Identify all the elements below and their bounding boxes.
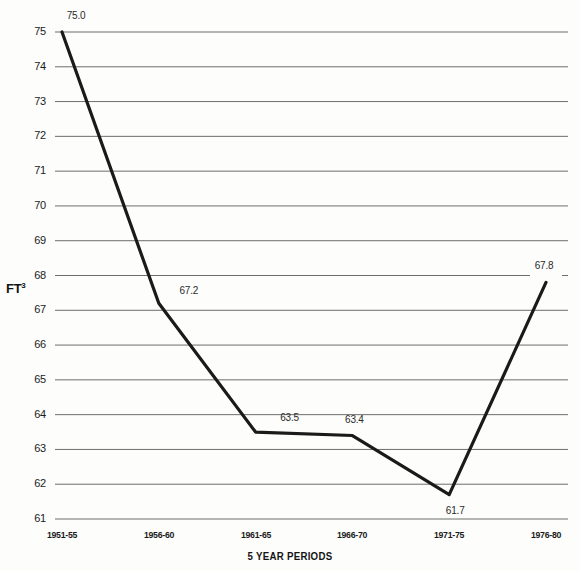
y-axis-tick-label: 71	[14, 164, 46, 176]
x-axis-title: 5 YEAR PERIODS	[35, 550, 545, 562]
x-axis-tick-label: 1966-70	[311, 529, 394, 540]
data-point-label: 67.2	[159, 285, 219, 296]
y-axis-tick-label: 67	[14, 303, 46, 315]
y-axis-tick-label: 61	[14, 512, 46, 524]
data-point-label: 75.0	[46, 10, 106, 21]
x-axis-tick-label: 1961-65	[214, 529, 297, 540]
data-point-label: 63.4	[324, 414, 384, 425]
y-axis-tick-label: 75	[14, 25, 46, 37]
y-axis-tick-label: 69	[14, 234, 46, 246]
data-point-label: 63.5	[260, 412, 320, 423]
x-axis-tick-label: 1951-55	[21, 529, 104, 540]
y-axis-tick-label: 66	[14, 338, 46, 350]
y-axis-tick-label: 73	[14, 95, 46, 107]
x-axis-tick-label: 1976-80	[505, 529, 580, 540]
y-axis-tick-label: 64	[14, 408, 46, 420]
chart-container: FT3 5 YEAR PERIODS 757473727170696867666…	[0, 0, 580, 571]
data-point-label: 67.8	[514, 260, 574, 271]
y-axis-tick-label: 62	[14, 477, 46, 489]
y-axis-tick-label: 72	[14, 129, 46, 141]
x-axis-tick-label: 1971-75	[408, 529, 491, 540]
y-axis-tick-label: 70	[14, 199, 46, 211]
y-axis-tick-label: 68	[14, 269, 46, 281]
y-axis-title: FT3	[6, 281, 25, 296]
data-point-label: 61.7	[425, 505, 485, 516]
x-axis-tick-label: 1956-60	[117, 529, 200, 540]
y-axis-tick-label: 74	[14, 60, 46, 72]
chart-plot-area	[0, 0, 580, 571]
y-axis-tick-label: 63	[14, 442, 46, 454]
y-axis-tick-label: 65	[14, 373, 46, 385]
